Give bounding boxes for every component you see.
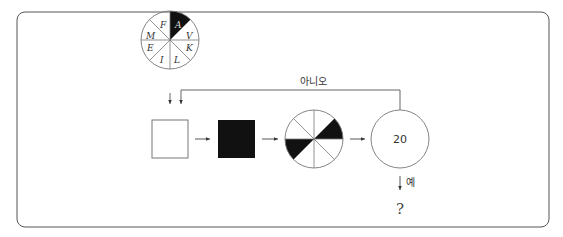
decision-value: 20 — [393, 133, 407, 146]
sector-label-e: E — [146, 43, 154, 53]
filled-sector-upper-right — [314, 119, 343, 140]
result-wheel — [285, 110, 343, 168]
sector-label-i: I — [159, 55, 164, 65]
no-label: 아니오 — [300, 76, 327, 87]
sector-label-l: L — [173, 55, 180, 65]
sector-label-f: F — [159, 20, 167, 30]
sector-label-a: A — [174, 20, 182, 30]
output-question-mark: ? — [396, 200, 404, 218]
sector-label-m: M — [145, 31, 156, 41]
black-box — [218, 120, 255, 158]
letter-wheel: A V K L I E M F — [141, 11, 199, 69]
sector-label-v: V — [186, 31, 194, 41]
diagram-frame — [17, 12, 549, 227]
yes-label: 예 — [406, 177, 415, 188]
feedback-line — [181, 90, 400, 110]
flow-diagram: A V K L I E M F 아니오 20 예 ? — [0, 0, 563, 237]
sector-label-k: K — [185, 43, 194, 53]
filled-sector-lower-left — [285, 139, 314, 160]
white-box — [152, 120, 188, 158]
